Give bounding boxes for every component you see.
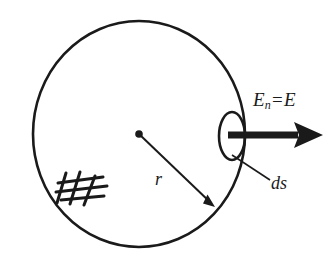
field-vector-arrow xyxy=(228,122,323,148)
diagram-ink xyxy=(33,21,323,247)
field-magnitude-label: En=E xyxy=(253,89,296,113)
physics-diagram xyxy=(0,0,328,262)
area-element-label: ds xyxy=(271,173,287,194)
figure-canvas: En=E ds r xyxy=(0,0,328,262)
equals-sign: = xyxy=(271,89,284,110)
field-symbol: E xyxy=(253,89,265,110)
radius-arrow xyxy=(139,134,211,203)
radius-label: r xyxy=(155,169,162,190)
field-value: E xyxy=(284,89,296,110)
surface-hatching xyxy=(56,172,107,205)
